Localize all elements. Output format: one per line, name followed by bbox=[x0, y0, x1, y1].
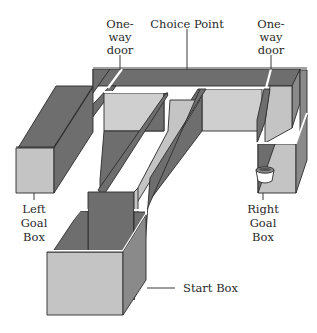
svg-text:Box: Box bbox=[23, 230, 45, 244]
svg-text:Goal: Goal bbox=[21, 216, 48, 230]
svg-text:One-: One- bbox=[257, 17, 285, 31]
svg-text:Right: Right bbox=[247, 202, 279, 216]
svg-text:way: way bbox=[259, 30, 283, 44]
svg-text:way: way bbox=[108, 30, 132, 44]
start-box bbox=[47, 188, 146, 315]
label-left-one-way-door: One- way door bbox=[106, 17, 134, 57]
svg-text:door: door bbox=[258, 43, 285, 57]
label-left-goal-box: Left Goal Box bbox=[21, 202, 48, 244]
food-cup-icon bbox=[256, 167, 274, 183]
svg-text:Goal: Goal bbox=[250, 216, 277, 230]
svg-text:door: door bbox=[107, 43, 134, 57]
svg-text:Box: Box bbox=[252, 230, 274, 244]
label-choice-point: Choice Point bbox=[150, 17, 224, 31]
label-start-box: Start Box bbox=[183, 281, 239, 295]
t-maze-diagram: One- way door Choice Point One- way door… bbox=[0, 0, 317, 333]
label-right-one-way-door: One- way door bbox=[257, 17, 285, 57]
start-box-front bbox=[47, 252, 123, 315]
maze-drawing: One- way door Choice Point One- way door… bbox=[0, 0, 317, 333]
svg-text:One-: One- bbox=[106, 17, 134, 31]
label-right-goal-box: Right Goal Box bbox=[247, 202, 279, 244]
svg-text:Left: Left bbox=[22, 202, 46, 216]
left-goal-box-front bbox=[16, 148, 54, 193]
